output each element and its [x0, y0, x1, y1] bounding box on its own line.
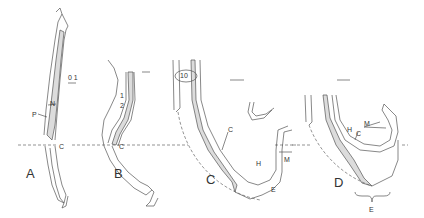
panel-label-d: D [334, 175, 343, 190]
panel-b-drawing [102, 60, 158, 206]
label-a-n: N [50, 100, 55, 107]
label-c-e: E [271, 186, 276, 193]
label-c-c: C [228, 126, 233, 133]
label-a-c: C [59, 143, 64, 150]
panel-d-drawing [305, 80, 398, 202]
label-b-2: 2 [120, 102, 124, 109]
label-c-h: H [256, 160, 261, 167]
scale-label-a: 0 1 [68, 74, 78, 81]
panel-a-drawing [38, 8, 76, 208]
label-b-c: C [119, 143, 124, 150]
panel-label-a: A [26, 166, 35, 181]
label-d-h: H [347, 126, 352, 133]
label-d-e: E [369, 206, 374, 213]
panel-label-b: B [114, 166, 123, 181]
label-b-1: 1 [120, 92, 124, 99]
label-d-c: C [356, 130, 361, 137]
label-d-m: M [364, 120, 370, 127]
panel-label-c: C [206, 172, 215, 187]
anatomical-figure: P N C 0 1 A 1 2 C B 10 C H M E C [0, 0, 424, 218]
label-c-10: 10 [180, 72, 188, 79]
label-a-p: P [32, 111, 37, 118]
label-c-m: M [284, 156, 290, 163]
